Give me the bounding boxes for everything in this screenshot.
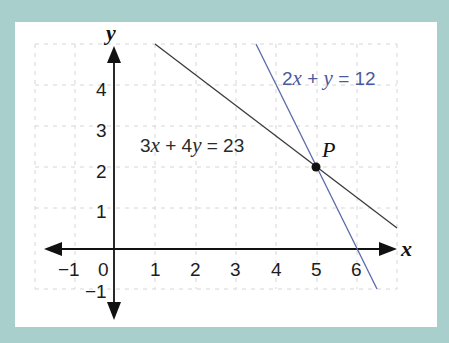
y-tick-4: 4 bbox=[96, 79, 107, 100]
x-axis bbox=[44, 242, 397, 256]
y-axis bbox=[107, 46, 121, 320]
x-axis-label: x bbox=[400, 236, 412, 261]
x-tick-labels: −1 0 1 2 3 4 5 6 bbox=[58, 259, 362, 280]
y-tick-1: 1 bbox=[96, 201, 107, 222]
x-tick-4: 4 bbox=[271, 259, 282, 280]
x-tick-5: 5 bbox=[311, 259, 322, 280]
x-tick-1: 1 bbox=[150, 259, 161, 280]
x-tick-2: 2 bbox=[190, 259, 201, 280]
y-axis-down-arrow-icon bbox=[107, 302, 121, 320]
x-axis-left-arrow-icon bbox=[44, 242, 62, 256]
y-axis-label: y bbox=[103, 20, 116, 45]
point-p-marker bbox=[312, 163, 321, 172]
point-p-label: P bbox=[321, 137, 335, 162]
x-axis-right-arrow-icon bbox=[379, 242, 397, 256]
x-tick-neg1: −1 bbox=[58, 259, 80, 280]
coordinate-plot: y x −1 0 1 2 3 4 5 6 4 3 2 1 −1 P 3x + 4… bbox=[0, 0, 449, 343]
y-tick-neg1: −1 bbox=[85, 281, 107, 302]
y-axis-up-arrow-icon bbox=[107, 46, 121, 63]
equation-label-black: 3x + 4y = 23 bbox=[140, 133, 244, 157]
y-tick-2: 2 bbox=[96, 161, 107, 182]
x-tick-3: 3 bbox=[230, 259, 241, 280]
x-tick-6: 6 bbox=[351, 259, 362, 280]
equation-label-blue: 2x + y = 12 bbox=[282, 66, 376, 90]
y-tick-3: 3 bbox=[96, 120, 107, 141]
x-tick-0: 0 bbox=[98, 259, 109, 280]
